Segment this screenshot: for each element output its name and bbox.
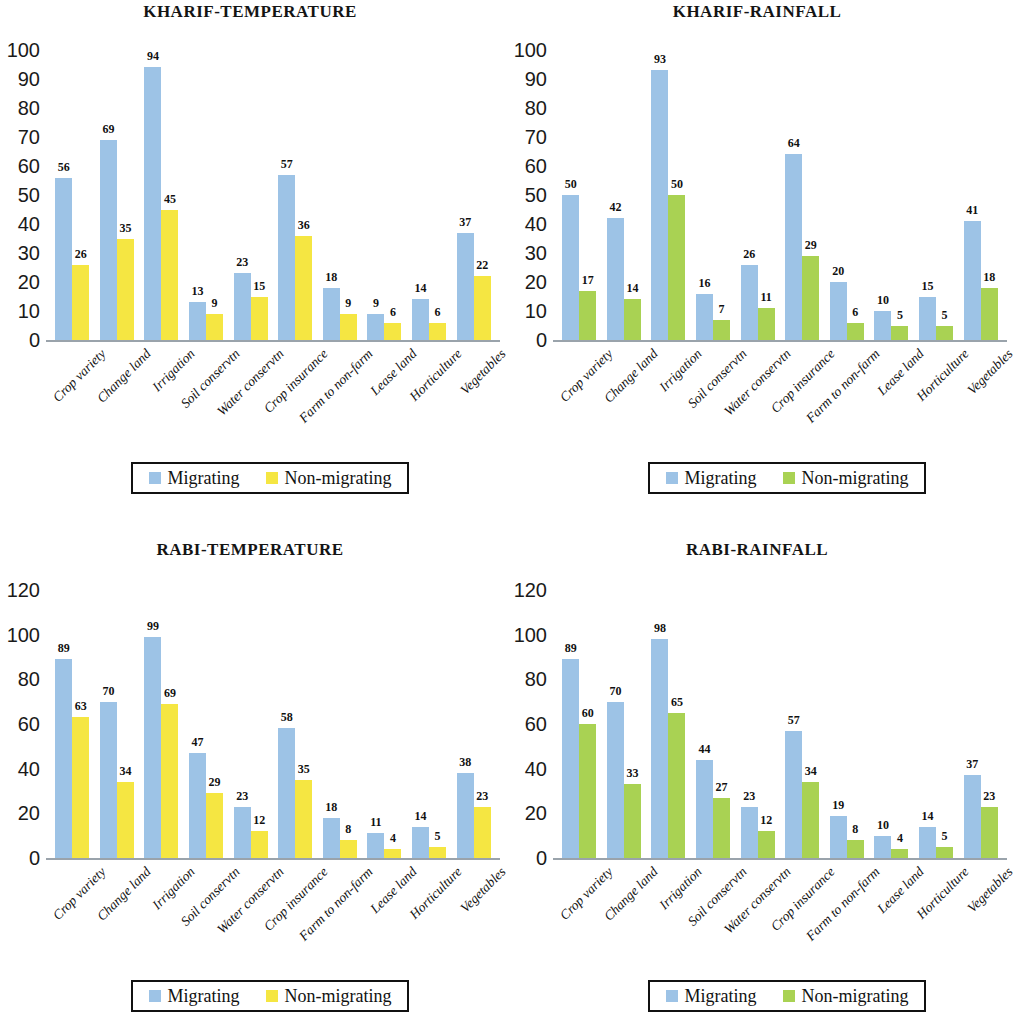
bar-non-migrating: 27	[713, 798, 730, 858]
bar-migrating: 89	[55, 659, 72, 858]
bar-migrating: 16	[696, 294, 713, 340]
bar-non-migrating: 4	[384, 849, 401, 858]
legend-item-migrating: Migrating	[149, 987, 240, 1005]
bar-value-label: 11	[370, 816, 381, 828]
bar-value-label: 44	[699, 743, 711, 755]
legend-label-migrating: Migrating	[685, 987, 757, 1005]
bar-group: 5736	[273, 50, 318, 340]
bar-groups: 56266935944513923155736189961463722	[46, 50, 500, 340]
bar-non-migrating: 45	[161, 210, 178, 341]
legend-label-non-migrating: Non-migrating	[802, 987, 909, 1005]
x-axis-labels: Crop varietyChange landIrrigationSoil co…	[46, 860, 500, 980]
y-axis-tick: 70	[18, 127, 40, 147]
bar-group: 9445	[139, 50, 184, 340]
legend-item-non-migrating: Non-migrating	[266, 469, 392, 487]
bar-migrating: 56	[55, 178, 72, 340]
bar-group: 8963	[50, 590, 95, 858]
bar-migrating: 9	[367, 314, 384, 340]
bar-value-label: 93	[654, 53, 666, 65]
bar-value-label: 38	[459, 756, 471, 768]
bar-value-label: 18	[325, 801, 337, 813]
bar-group: 3723	[958, 590, 1003, 858]
bar-migrating: 70	[100, 702, 117, 858]
x-axis-labels: Crop varietyChange landIrrigationSoil co…	[553, 342, 1007, 462]
bar-non-migrating: 17	[579, 291, 596, 340]
bar-migrating: 98	[651, 639, 668, 858]
bar-group: 145	[407, 590, 452, 858]
bar-value-label: 64	[788, 137, 800, 149]
plot-area: 0102030405060708090100 56266935944513923…	[0, 28, 500, 342]
bar-value-label: 14	[626, 282, 638, 294]
bar-value-label: 23	[236, 256, 248, 268]
legend-item-migrating: Migrating	[666, 987, 757, 1005]
legend-swatch-non-migrating	[783, 472, 795, 484]
bar-value-label: 42	[609, 201, 621, 213]
bar-value-label: 6	[390, 306, 396, 318]
bar-migrating: 10	[874, 311, 891, 340]
bar-value-label: 22	[476, 259, 488, 271]
bar-value-label: 15	[253, 280, 265, 292]
y-axis-tick: 0	[29, 330, 40, 350]
bar-non-migrating: 5	[891, 326, 908, 341]
bar-non-migrating: 12	[251, 831, 268, 858]
plot-bars-region: 8960703398654427231257341981041453723	[553, 590, 1007, 860]
chart-title: RABI-RAINFALL	[507, 530, 1007, 576]
bar-value-label: 7	[719, 303, 725, 315]
y-axis-tick: 90	[18, 69, 40, 89]
bar-value-label: 5	[942, 309, 948, 321]
bar-group: 2611	[735, 50, 780, 340]
bar-migrating: 47	[189, 753, 206, 858]
bar-value-label: 8	[345, 823, 351, 835]
bar-migrating: 20	[830, 282, 847, 340]
bar-value-label: 9	[345, 297, 351, 309]
legend-item-migrating: Migrating	[149, 469, 240, 487]
bar-value-label: 57	[281, 158, 293, 170]
bar-value-label: 35	[119, 222, 131, 234]
bar-group: 5734	[780, 590, 825, 858]
bar-migrating: 89	[562, 659, 579, 858]
bar-value-label: 69	[102, 123, 114, 135]
bar-non-migrating: 8	[847, 840, 864, 858]
bar-group: 3722	[451, 50, 496, 340]
bar-value-label: 37	[459, 216, 471, 228]
bar-value-label: 70	[609, 685, 621, 697]
bar-value-label: 15	[922, 280, 934, 292]
bar-migrating: 23	[741, 807, 758, 858]
legend-label-migrating: Migrating	[168, 469, 240, 487]
chart-panel-rabi-temperature: RABI-TEMPERATURE 020406080100120 8963703…	[0, 530, 500, 1022]
bar-migrating: 37	[457, 233, 474, 340]
bar-non-migrating: 8	[340, 840, 357, 858]
bar-migrating: 69	[100, 140, 117, 340]
bar-non-migrating: 23	[981, 807, 998, 858]
bar-non-migrating: 23	[474, 807, 491, 858]
bar-migrating: 93	[651, 70, 668, 340]
bar-non-migrating: 35	[117, 239, 134, 341]
bar-migrating: 14	[919, 827, 936, 858]
bar-non-migrating: 50	[668, 195, 685, 340]
y-axis-tick: 0	[536, 330, 547, 350]
bar-migrating: 18	[323, 288, 340, 340]
bar-value-label: 57	[788, 714, 800, 726]
plot-area: 020406080100120 896070339865442723125734…	[507, 576, 1007, 860]
bar-non-migrating: 35	[295, 780, 312, 858]
bar-value-label: 26	[743, 248, 755, 260]
bar-value-label: 14	[922, 810, 934, 822]
bar-migrating: 23	[234, 807, 251, 858]
bar-value-label: 50	[565, 178, 577, 190]
bar-migrating: 70	[607, 702, 624, 858]
y-axis: 020406080100120	[507, 576, 553, 858]
bar-non-migrating: 4	[891, 849, 908, 858]
y-axis-tick: 90	[525, 69, 547, 89]
bar-value-label: 6	[852, 306, 858, 318]
bar-group: 96	[362, 50, 407, 340]
bar-value-label: 9	[373, 297, 379, 309]
y-axis-tick: 60	[18, 714, 40, 734]
bar-group: 7033	[602, 590, 647, 858]
bar-group: 4427	[691, 590, 736, 858]
bar-value-label: 16	[699, 277, 711, 289]
y-axis-tick: 80	[18, 98, 40, 118]
chart-title: KHARIF-TEMPERATURE	[0, 0, 500, 28]
x-axis-labels: Crop varietyChange landIrrigationSoil co…	[553, 860, 1007, 980]
bar-group: 105	[869, 50, 914, 340]
bar-group: 6429	[780, 50, 825, 340]
